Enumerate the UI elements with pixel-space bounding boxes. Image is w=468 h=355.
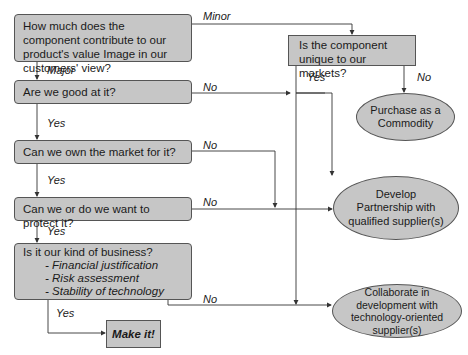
edge-label-business-yes: Yes (56, 307, 74, 319)
decision-good-at: Are we good at it? (14, 80, 192, 104)
decision-own-market: Can we own the market for it? (14, 140, 192, 164)
edge-label-unique-yes: Yes (307, 71, 325, 83)
decision-protect: Can we or do we want to protect it? (14, 197, 192, 221)
criterion-risk: - Risk assessment (23, 272, 183, 285)
outcome-partnership: Develop Partnership with qualified suppl… (333, 176, 459, 240)
outcome-make-it: Make it! (106, 320, 161, 348)
decision-value-contribution: How much does the component contribute t… (14, 14, 192, 62)
edge-label-good-no: No (203, 81, 217, 93)
outcome-commodity: Purchase as a Commodity (356, 93, 455, 141)
edge-label-own-no: No (203, 139, 217, 151)
edge-label-major: Major (47, 64, 75, 76)
our-business-title: Is it our kind of business? (23, 246, 153, 258)
edge-label-business-no: No (203, 293, 217, 305)
criterion-stability: - Stability of technology (23, 285, 183, 298)
outcome-collaborate: Collaborate in development with technolo… (332, 284, 462, 338)
decision-our-business: Is it our kind of business? - Financial … (14, 243, 192, 300)
criterion-financial: - Financial justification (23, 259, 183, 272)
edge-label-good-yes: Yes (47, 117, 65, 129)
edge-label-own-yes: Yes (47, 174, 65, 186)
edge-label-unique-no: No (417, 71, 431, 83)
edge-label-protect-no: No (203, 196, 217, 208)
decision-unique: Is the component unique to our markets? (288, 35, 416, 66)
edge-label-minor: Minor (203, 10, 231, 22)
edge-label-protect-yes: Yes (47, 225, 65, 237)
